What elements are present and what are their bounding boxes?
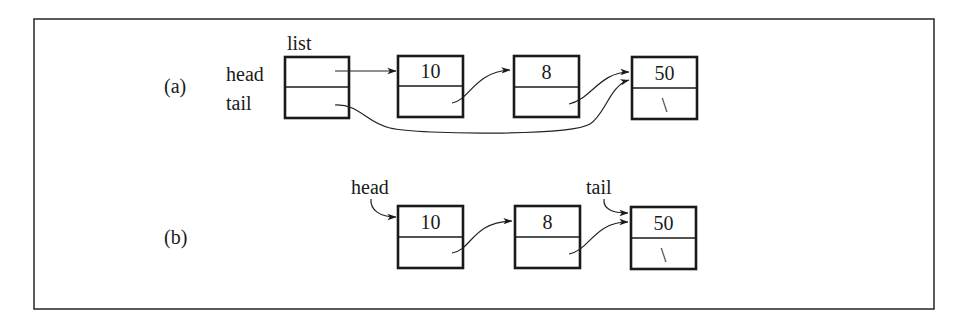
head-pointer-arrow	[371, 199, 396, 217]
tail-field-label: tail	[226, 92, 252, 114]
panel-b: (b) head tail 10 8 50 \	[164, 176, 696, 269]
node-value: 50	[654, 212, 674, 234]
tail-label: tail	[586, 176, 612, 198]
node-value: 50	[655, 62, 675, 84]
node-value: 8	[542, 61, 552, 83]
null-terminator: \	[661, 244, 667, 266]
node-8-a: 8	[514, 56, 579, 117]
node-10-a: 10	[398, 56, 463, 117]
head-label: head	[351, 176, 389, 198]
node-50-b: 50 \	[631, 207, 696, 269]
linked-list-diagram: (a) list head tail 10 8 50 \	[0, 0, 961, 325]
node-value: 10	[421, 60, 441, 82]
figure-frame	[34, 19, 934, 309]
node-value: 10	[421, 211, 441, 233]
list-box	[285, 57, 349, 118]
tail-pointer-arrow	[335, 80, 629, 133]
node-10-b: 10	[398, 206, 463, 268]
head-field-label: head	[226, 63, 264, 85]
node-value: 8	[543, 211, 553, 233]
tail-pointer-arrow	[604, 199, 628, 213]
null-terminator: \	[662, 94, 668, 116]
node-50-a: 50 \	[632, 57, 697, 119]
panel-b-label: (b)	[164, 226, 187, 249]
list-title: list	[287, 32, 312, 54]
panel-a: (a) list head tail 10 8 50 \	[164, 32, 697, 133]
panel-a-label: (a)	[164, 75, 186, 98]
node-8-b: 8	[515, 206, 580, 268]
